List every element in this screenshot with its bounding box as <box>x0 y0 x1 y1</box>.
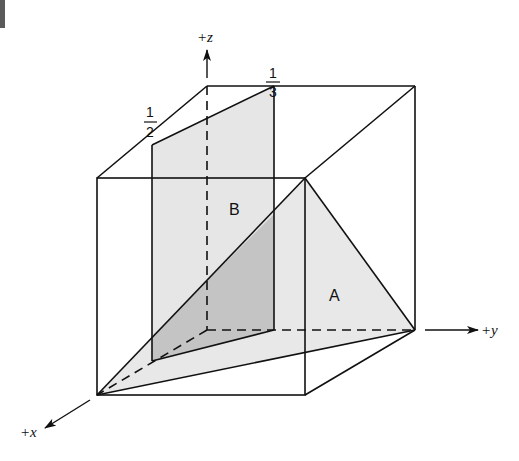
x-axis-arrow <box>45 400 90 428</box>
diagram-canvas: +z +y +x 1 2 1 3 B A <box>0 0 519 461</box>
plane-a-label: A <box>329 287 340 304</box>
fraction-half: 1 2 <box>144 104 157 140</box>
half-denominator: 2 <box>146 124 154 140</box>
third-numerator: 1 <box>269 65 277 81</box>
corner-tab-marker <box>0 0 5 28</box>
fraction-third: 1 3 <box>266 65 280 100</box>
half-numerator: 1 <box>146 104 154 120</box>
y-axis-label: +y <box>481 322 498 338</box>
plane-b-label: B <box>229 201 240 218</box>
third-denominator: 3 <box>269 84 277 100</box>
z-axis-label: +z <box>197 29 213 45</box>
x-axis-label: +x <box>20 424 37 440</box>
cube-diagram: +z +y +x 1 2 1 3 B A <box>0 0 519 461</box>
